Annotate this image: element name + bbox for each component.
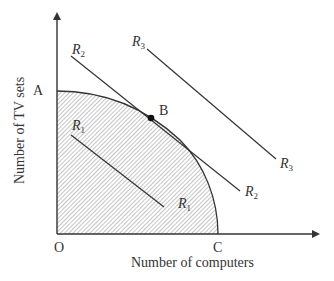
point-b-marker xyxy=(148,115,155,122)
y-axis-title: Number of TV sets xyxy=(12,77,27,184)
label-r2-lower: R2 xyxy=(244,184,258,201)
label-r3-upper: R3 xyxy=(131,34,146,51)
label-origin: O xyxy=(54,240,64,255)
ppf-diagram: A B C O R1 R1 R2 R2 R3 R3 Number of comp… xyxy=(0,0,334,281)
label-a: A xyxy=(33,83,44,98)
label-c: C xyxy=(213,240,222,255)
feasible-region xyxy=(57,91,218,234)
label-r3-lower: R3 xyxy=(279,156,294,173)
label-r2-upper: R2 xyxy=(71,42,85,59)
x-axis-title: Number of computers xyxy=(131,255,254,270)
label-b: B xyxy=(159,103,168,118)
